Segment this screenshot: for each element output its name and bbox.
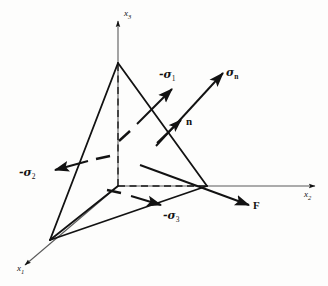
tetrahedron-edges-group bbox=[50, 63, 207, 240]
x2-axis-label: x2 bbox=[304, 190, 311, 201]
negative-sigma-2-label: -σ2 bbox=[19, 167, 35, 181]
n-normal-arrow bbox=[157, 120, 181, 143]
edge-x1-to-x2 bbox=[50, 186, 207, 240]
diagram-canvas bbox=[0, 0, 328, 286]
cauchy-tetrahedron-figure: x3 x2 x1 σn n F -σ1 -σ2 -σ3 bbox=[0, 0, 328, 286]
sigma-n-label: σn bbox=[226, 67, 238, 81]
negative-sigma-1-dash bbox=[119, 131, 130, 141]
negative-sigma-2-arrow bbox=[55, 161, 88, 170]
negative-sigma-1-arrow bbox=[137, 89, 172, 124]
negative-sigma-3-label: -σ3 bbox=[163, 210, 179, 224]
x3-axis-label: x3 bbox=[124, 9, 131, 20]
vector-arrows-group bbox=[55, 73, 249, 205]
negative-sigma-3-arrow bbox=[131, 196, 161, 205]
negative-sigma-2-dash bbox=[96, 156, 110, 159]
x1-axis-label: x1 bbox=[17, 264, 24, 275]
axis-group bbox=[25, 21, 315, 265]
negative-sigma-1-label: -σ1 bbox=[159, 69, 175, 83]
n-normal-label: n bbox=[186, 116, 192, 127]
F-force-arrow bbox=[140, 165, 249, 205]
F-force-label: F bbox=[253, 200, 260, 211]
